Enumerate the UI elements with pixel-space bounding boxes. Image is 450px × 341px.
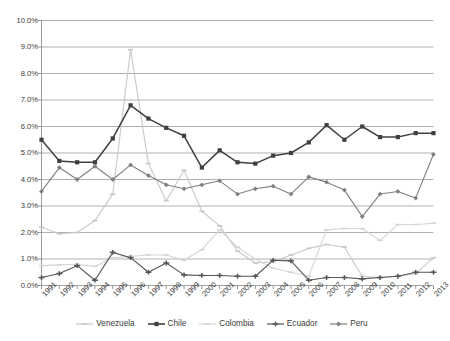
x-axis-tick-label: 1996	[129, 280, 147, 298]
x-axis-tick-label: 2011	[396, 280, 414, 298]
x-axis-tick-label: 2008	[343, 280, 361, 298]
x-axis-tick-label: 1998	[165, 280, 183, 298]
x-axis-tick-label: 2012	[414, 280, 432, 298]
x-axis-tick-label: 2007	[325, 280, 343, 298]
legend-marker-diamond-icon	[330, 319, 347, 329]
x-axis-tick-label: 2004	[272, 280, 290, 298]
x-axis-tick-label: 2000	[200, 280, 218, 298]
legend-item-chile[interactable]: Chile	[148, 319, 187, 329]
x-axis-tick-label: 1992	[58, 280, 76, 298]
x-axis-tick-label: 1993	[76, 280, 94, 298]
legend-label: Ecuador	[287, 320, 318, 328]
chart-legend: VenezuelaChileColombiaEcuadorPeru	[0, 316, 444, 332]
x-axis-tick-label: 2003	[254, 280, 272, 298]
legend-item-venezuela[interactable]: Venezuela	[76, 319, 134, 329]
legend-marker-dash-icon	[76, 319, 93, 329]
x-axis-tick-label: 2001	[218, 280, 236, 298]
legend-label: Colombia	[219, 320, 254, 328]
legend-item-peru[interactable]: Peru	[330, 319, 367, 329]
x-axis-tick-label: 2009	[361, 280, 379, 298]
x-axis-tick-label: 2013	[432, 280, 450, 298]
legend-label: Venezuela	[96, 320, 134, 328]
x-axis-tick-label: 1997	[147, 280, 165, 298]
legend-marker-dash-cross-icon	[267, 319, 284, 329]
legend-item-colombia[interactable]: Colombia	[199, 319, 254, 329]
x-axis-tick-label: 2006	[307, 280, 325, 298]
legend-marker-dash-icon	[199, 319, 216, 329]
legend-label: Chile	[168, 320, 187, 328]
x-axis-tick-label: 1994	[93, 280, 111, 298]
x-axis-tick-label: 2010	[379, 280, 397, 298]
x-axis-tick-label: 2005	[289, 280, 307, 298]
x-axis-tick-label: 1995	[111, 280, 129, 298]
x-axis-tick-label: 1999	[183, 280, 201, 298]
x-axis-tick-label: 1991	[40, 280, 58, 298]
legend-label: Peru	[350, 320, 367, 328]
legend-item-ecuador[interactable]: Ecuador	[267, 319, 318, 329]
x-axis-tick-label: 2002	[236, 280, 254, 298]
legend-marker-square-icon	[148, 319, 165, 329]
